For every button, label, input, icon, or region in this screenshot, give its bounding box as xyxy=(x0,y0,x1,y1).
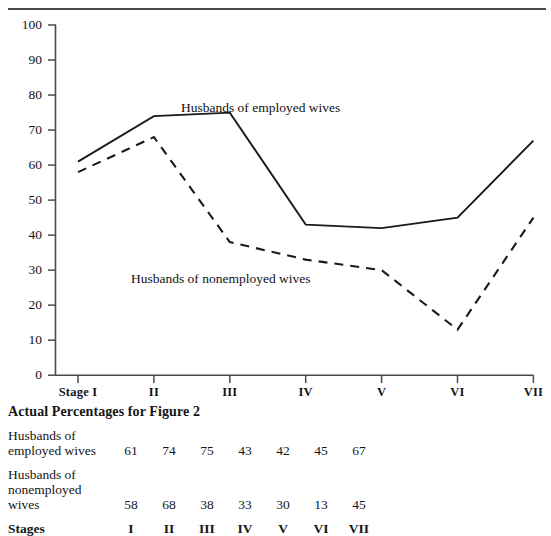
table-cell-value: 68 xyxy=(150,467,188,512)
table-row-spacer xyxy=(8,512,378,521)
table-cell-value: 45 xyxy=(340,467,378,512)
table-cell-value: 42 xyxy=(264,428,302,458)
table-row-label: Husbands of employed wives xyxy=(8,428,112,458)
y-tick-label: 20 xyxy=(8,298,42,312)
table-row: Husbands of employed wives61747543424567 xyxy=(8,428,378,458)
table-cell-value: 13 xyxy=(302,467,340,512)
table-cell-stage: II xyxy=(150,521,188,536)
line-chart: 0102030405060708090100 Stage IIIIIIIVVVI… xyxy=(0,0,551,400)
y-tick-label: 70 xyxy=(8,123,42,137)
y-tick-label: 90 xyxy=(8,53,42,67)
table-title: Actual Percentages for Figure 2 xyxy=(8,404,543,420)
y-tick-label: 80 xyxy=(8,88,42,102)
table-cell-stage: III xyxy=(188,521,226,536)
table-cell-stage: VI xyxy=(302,521,340,536)
chart-canvas xyxy=(0,0,551,400)
percentages-grid: Husbands of employed wives61747543424567… xyxy=(8,428,378,536)
series-annotation-0: Husbands of employed wives xyxy=(181,100,340,116)
table-cell-value: 33 xyxy=(226,467,264,512)
table-cell-stage: VII xyxy=(340,521,378,536)
table-row-label: Stages xyxy=(8,521,112,536)
table-cell-stage: I xyxy=(112,521,150,536)
table-cell-value: 43 xyxy=(226,428,264,458)
table-row-label: Husbands of nonemployed wives xyxy=(8,467,112,512)
y-tick-label: 60 xyxy=(8,158,42,172)
table-cell-value: 38 xyxy=(188,467,226,512)
series-line-employed xyxy=(78,113,533,229)
table-cell-value: 30 xyxy=(264,467,302,512)
y-tick-label: 40 xyxy=(8,228,42,242)
y-tick-label: 0 xyxy=(8,368,42,382)
table-cell-value: 61 xyxy=(112,428,150,458)
table-row: Husbands of nonemployed wives58683833301… xyxy=(8,467,378,512)
table-cell-value: 75 xyxy=(188,428,226,458)
series-line-nonemployed xyxy=(78,137,533,330)
y-tick-label: 30 xyxy=(8,263,42,277)
actual-percentages-table: Actual Percentages for Figure 2 Husbands… xyxy=(8,404,543,536)
table-cell-stage: V xyxy=(264,521,302,536)
y-tick-label: 10 xyxy=(8,333,42,347)
table-row-stages: StagesIIIIIIIVVVIVII xyxy=(8,521,378,536)
table-cell-value: 67 xyxy=(340,428,378,458)
table-cell-value: 74 xyxy=(150,428,188,458)
table-cell-stage: IV xyxy=(226,521,264,536)
table-cell-value: 45 xyxy=(302,428,340,458)
y-tick-label: 50 xyxy=(8,193,42,207)
table-cell-value: 58 xyxy=(112,467,150,512)
table-row-spacer xyxy=(8,458,378,467)
x-tick-marks xyxy=(78,375,533,383)
series-annotation-1: Husbands of nonemployed wives xyxy=(131,271,311,287)
x-tick-label: VII xyxy=(488,386,551,399)
y-tick-label: 100 xyxy=(8,18,42,32)
